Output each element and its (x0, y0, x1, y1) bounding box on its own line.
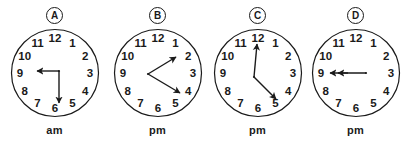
numeral-2: 2 (383, 50, 389, 62)
numeral-9: 9 (16, 67, 22, 79)
numeral-11: 11 (234, 37, 247, 49)
numeral-5: 5 (69, 97, 76, 109)
numeral-9: 9 (317, 67, 323, 79)
numeral-3: 3 (189, 67, 195, 79)
numeral-1: 1 (272, 37, 279, 49)
numeral-2: 2 (285, 50, 291, 62)
numeral-7: 7 (137, 97, 143, 109)
panel-tag-b: B (149, 7, 166, 24)
numeral-6: 6 (352, 102, 358, 114)
meridiem-label-b: pm (149, 124, 166, 136)
numeral-8: 8 (21, 85, 28, 97)
numeral-1: 1 (370, 37, 377, 49)
meridiem-label-d: pm (347, 124, 364, 136)
numeral-4: 4 (185, 85, 192, 97)
hand-pivot (57, 70, 59, 72)
clock-panel-d: D 12 1 2 3 4 5 6 7 8 9 10 11 (304, 0, 407, 158)
clock-panel-b: B 12 1 2 3 4 5 6 7 8 9 10 11 (106, 0, 209, 158)
numeral-12: 12 (251, 32, 264, 44)
numeral-6: 6 (51, 102, 57, 114)
numeral-3: 3 (289, 67, 295, 79)
clock-panel-c: C 12 1 2 3 4 5 6 7 8 9 10 11 (206, 0, 309, 158)
numeral-4: 4 (285, 85, 292, 97)
numeral-9: 9 (219, 67, 225, 79)
numeral-12: 12 (349, 32, 362, 44)
numeral-4: 4 (82, 85, 89, 97)
panel-tag-c: C (249, 7, 266, 24)
numeral-6: 6 (254, 102, 260, 114)
clock-face-a: 12 1 2 3 4 5 6 7 8 9 10 11 (9, 27, 101, 119)
numeral-12: 12 (48, 32, 61, 44)
clock-panel-a: A 12 1 2 3 4 5 6 7 8 9 10 11 (3, 0, 106, 158)
clock-face-d: 12 1 2 3 4 5 6 7 8 9 10 11 (310, 27, 402, 119)
numeral-1: 1 (69, 37, 76, 49)
numeral-8: 8 (224, 85, 231, 97)
clock-worksheet: A 12 1 2 3 4 5 6 7 8 9 10 11 (0, 0, 412, 158)
meridiem-label-a: am (46, 124, 62, 136)
numeral-8: 8 (322, 85, 329, 97)
numeral-5: 5 (172, 97, 179, 109)
numeral-10: 10 (221, 50, 234, 62)
numeral-2: 2 (82, 50, 88, 62)
numeral-3: 3 (86, 67, 92, 79)
numeral-1: 1 (172, 37, 179, 49)
numeral-4: 4 (383, 85, 390, 97)
numeral-2: 2 (185, 50, 191, 62)
numeral-11: 11 (134, 37, 147, 49)
numeral-3: 3 (387, 67, 393, 79)
meridiem-label-c: pm (249, 124, 266, 136)
numeral-7: 7 (237, 97, 243, 109)
numeral-10: 10 (18, 50, 31, 62)
numeral-6: 6 (154, 102, 160, 114)
hand-pivot (252, 76, 254, 78)
numeral-10: 10 (319, 50, 332, 62)
numeral-8: 8 (124, 85, 131, 97)
numeral-10: 10 (121, 50, 134, 62)
clock-face-b: 12 1 2 3 4 5 6 7 8 9 10 11 (112, 27, 204, 119)
hand-pivot (146, 73, 148, 75)
panel-tag-a: A (46, 7, 63, 24)
numeral-5: 5 (370, 97, 377, 109)
numeral-12: 12 (151, 32, 164, 44)
numeral-7: 7 (335, 97, 341, 109)
numeral-11: 11 (31, 37, 44, 49)
numeral-9: 9 (119, 67, 125, 79)
clock-face-c: 12 1 2 3 4 5 6 7 8 9 10 11 (212, 27, 304, 119)
numeral-11: 11 (332, 37, 345, 49)
hand-pivot (364, 72, 366, 74)
numeral-7: 7 (34, 97, 40, 109)
panel-tag-d: D (347, 7, 364, 24)
